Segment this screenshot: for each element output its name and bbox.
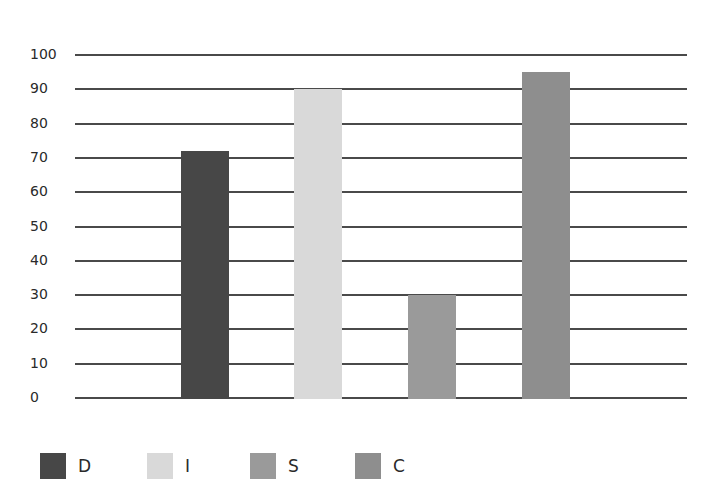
gridline bbox=[75, 157, 687, 159]
y-tick-label: 50 bbox=[30, 218, 72, 234]
gridline bbox=[75, 397, 687, 399]
legend-label: C bbox=[393, 456, 405, 476]
bar-d bbox=[181, 151, 229, 399]
bar-s bbox=[408, 295, 456, 399]
legend: DISC bbox=[0, 453, 717, 483]
gridline bbox=[75, 328, 687, 330]
legend-swatch-icon bbox=[40, 453, 66, 479]
y-tick-label: 0 bbox=[30, 389, 72, 405]
gridline bbox=[75, 88, 687, 90]
legend-label: D bbox=[78, 456, 91, 476]
bar-i bbox=[294, 89, 342, 399]
legend-swatch-icon bbox=[355, 453, 381, 479]
gridline bbox=[75, 363, 687, 365]
legend-item-d: D bbox=[40, 453, 91, 479]
gridline bbox=[75, 260, 687, 262]
gridline bbox=[75, 54, 687, 56]
y-tick-label: 100 bbox=[30, 46, 72, 62]
legend-swatch-icon bbox=[147, 453, 173, 479]
y-tick-label: 60 bbox=[30, 183, 72, 199]
gridline bbox=[75, 226, 687, 228]
legend-label: I bbox=[185, 456, 190, 476]
legend-item-i: I bbox=[147, 453, 190, 479]
legend-item-s: S bbox=[250, 453, 299, 479]
bar-c bbox=[522, 72, 570, 399]
y-tick-label: 10 bbox=[30, 355, 72, 371]
y-tick-label: 20 bbox=[30, 320, 72, 336]
gridline bbox=[75, 294, 687, 296]
legend-label: S bbox=[288, 456, 299, 476]
gridline bbox=[75, 191, 687, 193]
legend-swatch-icon bbox=[250, 453, 276, 479]
y-tick-label: 30 bbox=[30, 286, 72, 302]
y-tick-label: 70 bbox=[30, 149, 72, 165]
y-tick-label: 40 bbox=[30, 252, 72, 268]
gridline bbox=[75, 123, 687, 125]
legend-item-c: C bbox=[355, 453, 405, 479]
y-tick-label: 80 bbox=[30, 115, 72, 131]
y-tick-label: 90 bbox=[30, 80, 72, 96]
disc-bar-chart: 0102030405060708090100 DISC bbox=[0, 0, 717, 499]
